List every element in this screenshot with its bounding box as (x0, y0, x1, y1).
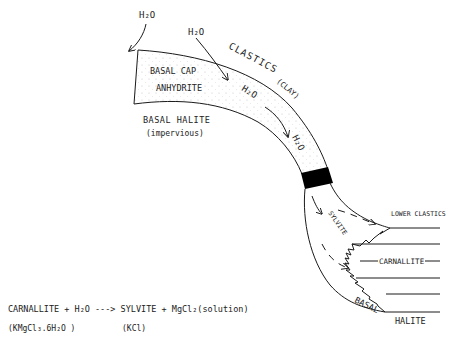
label-water-top-left: H₂O (139, 10, 155, 20)
label-sylvite: SYLVITE (326, 210, 348, 237)
dashed-arrow-lower (322, 244, 348, 268)
arrow-top-left (129, 24, 146, 51)
equation-line: CARNALLITE + H₂O ---> SYLVITE + MgCl₂(so… (8, 304, 249, 314)
label-halite: HALITE (395, 316, 426, 326)
label-water-top-mid: H₂O (188, 27, 204, 37)
dashed-arrow-upper (338, 210, 375, 224)
carnallite-formula: (KMgCl₃.6H₂O ) (8, 324, 75, 333)
label-basal-cap: BASAL CAP (150, 66, 196, 76)
label-carnallite: CARNALLITE (379, 257, 425, 266)
label-lower-clastics: LOWER CLASTICS (391, 210, 446, 218)
arrow-sylvite-left (312, 196, 322, 214)
label-anhydrite: ANHYDRITE (156, 83, 202, 93)
reaction-equation: CARNALLITE + H₂O ---> SYLVITE + MgCl₂(so… (8, 304, 249, 333)
label-basal: BASAL (353, 295, 380, 315)
sylvite-formula: (KCl) (122, 324, 146, 333)
lower-flared-band (304, 183, 390, 312)
dissolution-diagram: H₂O H₂O CLASTICS (CLAY) BASAL CAP ANHYDR… (0, 0, 454, 350)
label-impervious: (impervious) (146, 129, 204, 138)
outer-basal-boundary (304, 189, 385, 312)
label-basal-halite: BASAL HALITE (143, 115, 210, 125)
